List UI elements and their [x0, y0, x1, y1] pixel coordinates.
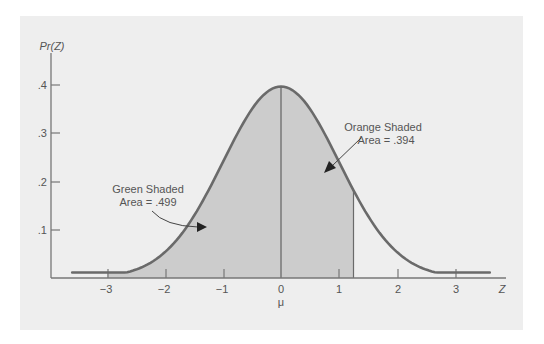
orange-annotation-line2: Area = .394 [357, 134, 414, 146]
x-tick-label: 3 [453, 283, 459, 295]
y-tick-label: .3 [38, 127, 47, 139]
orange-arrow [332, 138, 361, 166]
y-tick-label: .4 [38, 79, 47, 91]
x-tick-label: 0 [278, 283, 284, 295]
x-tick-label: 2 [395, 283, 401, 295]
x-axis-label: Z [498, 283, 507, 295]
y-axis-label: Pr(Z) [39, 40, 64, 52]
mu-label: μ [278, 296, 284, 308]
y-ticks [51, 85, 60, 230]
orange-annotation-line1: Orange Shaded [344, 121, 422, 133]
y-tick-label: .2 [38, 176, 47, 188]
green-annotation-line1: Green Shaded [112, 183, 184, 195]
normal-distribution-chart: .4 .3 .2 .1 −3 −2 −1 0 1 2 3 μ Z Pr(Z) G… [0, 0, 544, 344]
y-tick-label: .1 [38, 224, 47, 236]
green-annotation-line2: Area = .499 [119, 196, 176, 208]
x-tick-label: −2 [158, 283, 171, 295]
x-tick-label: −1 [216, 283, 229, 295]
x-tick-label: −3 [100, 283, 113, 295]
x-tick-label: 1 [336, 283, 342, 295]
